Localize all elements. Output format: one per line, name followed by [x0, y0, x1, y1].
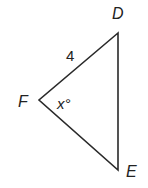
- vertex-label-d: D: [112, 6, 124, 22]
- vertex-label-e: E: [126, 164, 137, 180]
- vertex-label-f: F: [18, 94, 28, 110]
- side-length-fd: 4: [66, 48, 74, 63]
- triangle-diagram: D F E 4 x°: [0, 0, 148, 188]
- angle-label-f: x°: [57, 96, 71, 111]
